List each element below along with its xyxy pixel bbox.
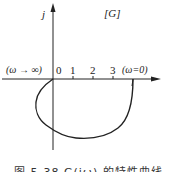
tick-label-1: 1 bbox=[70, 65, 76, 76]
tick-label-2: 2 bbox=[90, 65, 96, 76]
imag-axis-label: j bbox=[42, 9, 45, 20]
real-axis-arrow-icon bbox=[151, 77, 161, 82]
figure-caption: 图 5-38 G(jω) 的特性曲线 bbox=[14, 163, 163, 172]
omega-infinity-label: (ω → ∞) bbox=[6, 65, 42, 75]
imaginary-axis-arrow-icon bbox=[51, 3, 56, 12]
plane-label: [G] bbox=[104, 8, 121, 19]
tick-label-0: 0 bbox=[56, 65, 62, 76]
omega-zero-label: (ω=0) bbox=[122, 65, 147, 75]
nyquist-curve bbox=[36, 79, 133, 138]
nyquist-diagram bbox=[0, 0, 171, 172]
tick-label-3: 3 bbox=[110, 65, 116, 76]
